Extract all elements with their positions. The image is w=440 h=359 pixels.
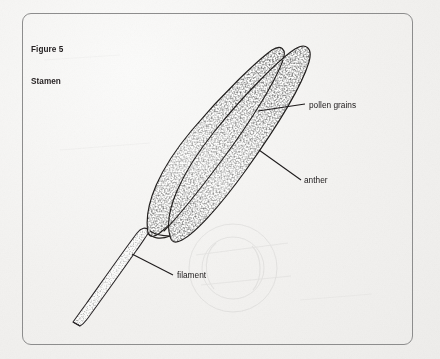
leader-line-filament	[132, 254, 173, 275]
anther-lobe-front	[150, 40, 330, 250]
label-pollen-grains: pollen grains	[309, 101, 356, 110]
label-filament: filament	[177, 271, 206, 280]
stamen-illustration	[0, 0, 440, 359]
leader-line-anther	[259, 150, 301, 180]
label-anther: anther	[304, 176, 328, 185]
figure-screenshot: Figure 5 Stamen	[0, 0, 440, 359]
